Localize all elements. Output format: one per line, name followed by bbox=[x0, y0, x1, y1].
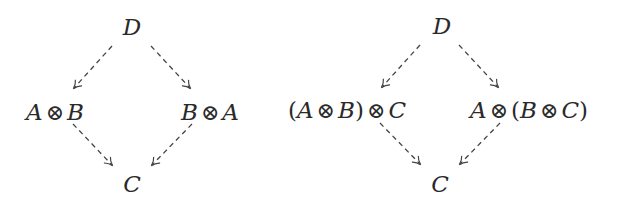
label-c: C bbox=[123, 171, 141, 197]
arrow-d-to-b-tensor-a bbox=[151, 46, 190, 88]
tensor-operator: ⊗ bbox=[490, 98, 508, 123]
var-b: B bbox=[181, 99, 198, 125]
label-c: C bbox=[431, 171, 449, 197]
node-ab-tensor-c: (A⊗B)⊗C bbox=[288, 99, 406, 122]
node-d-right: D bbox=[433, 15, 451, 38]
paren-open: ( bbox=[288, 97, 297, 123]
arrow-b-tensor-a-to-c bbox=[152, 124, 192, 165]
var-b: B bbox=[67, 99, 84, 125]
tensor-operator: ⊗ bbox=[317, 98, 335, 123]
tensor-operator: ⊗ bbox=[46, 100, 64, 125]
tensor-operator: ⊗ bbox=[367, 98, 385, 123]
tensor-operator: ⊗ bbox=[540, 98, 558, 123]
diagram-canvas: D A⊗B B⊗A C D (A⊗B)⊗C A⊗(B⊗C) C bbox=[0, 0, 618, 205]
arrow-d-to-ab-tensor-c bbox=[382, 45, 420, 87]
var-a: A bbox=[297, 97, 314, 123]
node-c-left: C bbox=[123, 173, 141, 196]
var-c: C bbox=[561, 97, 579, 123]
arrow-a-tensor-bc-to-c bbox=[460, 123, 500, 164]
var-b: B bbox=[520, 97, 537, 123]
label-d: D bbox=[123, 14, 141, 40]
label-d: D bbox=[433, 13, 451, 39]
arrow-a-tensor-b-to-c bbox=[73, 124, 112, 165]
arrow-d-to-a-tensor-bc bbox=[459, 45, 498, 87]
node-b-tensor-a: B⊗A bbox=[181, 101, 239, 124]
arrow-d-to-a-tensor-b bbox=[74, 46, 112, 88]
var-b: B bbox=[338, 97, 355, 123]
var-a: A bbox=[470, 97, 487, 123]
var-a: A bbox=[26, 99, 43, 125]
var-a: A bbox=[222, 99, 239, 125]
node-c-right: C bbox=[431, 173, 449, 196]
paren-close: ) bbox=[579, 97, 588, 123]
node-d-left: D bbox=[123, 16, 141, 39]
node-a-tensor-b: A⊗B bbox=[26, 101, 84, 124]
var-c: C bbox=[388, 97, 406, 123]
paren-close: ) bbox=[355, 97, 364, 123]
tensor-operator: ⊗ bbox=[201, 100, 219, 125]
node-a-tensor-bc: A⊗(B⊗C) bbox=[470, 99, 588, 122]
paren-open: ( bbox=[511, 97, 520, 123]
arrow-ab-tensor-c-to-c bbox=[380, 123, 420, 164]
